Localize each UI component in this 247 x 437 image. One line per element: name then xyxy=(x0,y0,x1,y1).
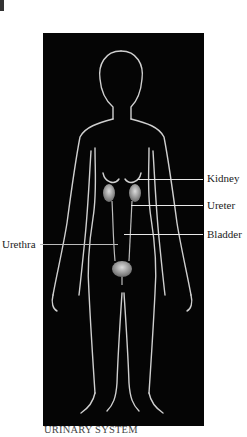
anatomy-illustration xyxy=(43,33,204,426)
ureter-right xyxy=(129,201,132,261)
ureter-leader-line xyxy=(131,205,203,206)
ureter-left xyxy=(112,201,115,261)
ureter-label: Ureter xyxy=(207,199,235,211)
kidney-left xyxy=(103,184,115,202)
bladder-label: Bladder xyxy=(207,228,242,240)
body-outline-figure xyxy=(43,33,204,426)
bladder xyxy=(112,261,132,277)
kidney-leader-line xyxy=(137,179,203,180)
figure-caption: URINARY SYSTEM xyxy=(44,424,138,435)
bladder-leader-line xyxy=(124,234,203,235)
page-corner-mark xyxy=(0,0,4,11)
kidney-right xyxy=(129,184,141,202)
kidney-label: Kidney xyxy=(207,172,239,184)
urethra-leader-line xyxy=(40,244,118,245)
urethra-label: Urethra xyxy=(2,238,36,250)
